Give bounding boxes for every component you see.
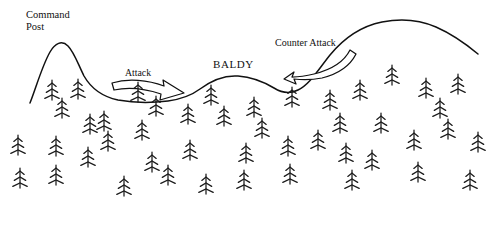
counter-attack-label: Counter Attack — [275, 37, 336, 48]
terrain-sketch-figure: Command Post BALDY Attack Counter Attack — [0, 0, 495, 233]
attack-label: Attack — [125, 67, 151, 78]
command-post-label-line1: Command — [26, 9, 70, 20]
map-canvas: Command Post BALDY Attack Counter Attack — [0, 0, 495, 233]
command-post-label-line2: Post — [26, 21, 44, 32]
canvas-background — [0, 0, 495, 233]
baldy-label: BALDY — [213, 58, 254, 70]
